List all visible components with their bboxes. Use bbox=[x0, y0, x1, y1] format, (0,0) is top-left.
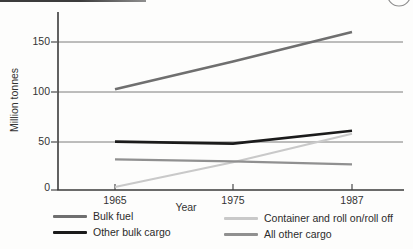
legend-label-other-bulk-cargo: Other bulk cargo bbox=[93, 226, 171, 239]
legend-item-other-bulk-cargo: Other bulk cargo bbox=[53, 226, 171, 239]
legend-item-all-other-cargo: All other cargo bbox=[224, 228, 332, 241]
series-line-all-other-cargo bbox=[115, 159, 352, 164]
chart-figure: 150 100 50 0 1965 1975 1987 Million tonn… bbox=[0, 0, 413, 249]
y-tick-label-50: 50 bbox=[18, 135, 50, 148]
legend-swatch-all-other-cargo bbox=[224, 233, 258, 236]
legend-item-bulk-fuel: Bulk fuel bbox=[53, 210, 133, 223]
y-tick-label-100: 100 bbox=[18, 85, 50, 98]
legend-label-all-other-cargo: All other cargo bbox=[264, 228, 332, 241]
x-tick-label-1965: 1965 bbox=[95, 194, 135, 206]
series-line-bulk-fuel bbox=[115, 32, 352, 89]
y-axis-title: Million tonnes bbox=[7, 62, 21, 138]
y-tick-label-0: 0 bbox=[18, 181, 50, 194]
legend-swatch-container-roro bbox=[224, 217, 258, 220]
x-axis-title: Year bbox=[166, 201, 206, 213]
legend-label-bulk-fuel: Bulk fuel bbox=[93, 210, 133, 223]
x-tick-label-1975: 1975 bbox=[213, 194, 253, 206]
legend-item-container-roro: Container and roll on/roll off bbox=[224, 212, 393, 225]
y-tick-label-150: 150 bbox=[18, 35, 50, 48]
page-circle-arc bbox=[388, 0, 411, 6]
legend-swatch-other-bulk-cargo bbox=[53, 231, 87, 234]
legend-swatch-bulk-fuel bbox=[53, 215, 87, 218]
x-tick-label-1987: 1987 bbox=[332, 194, 372, 206]
legend-label-container-roro: Container and roll on/roll off bbox=[264, 212, 393, 225]
